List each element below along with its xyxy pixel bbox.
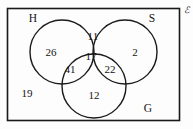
region-count-h-and-g: 41 — [64, 64, 75, 75]
set-label-g: G — [144, 103, 152, 115]
venn-diagram-figure: H S G 26 2 12 11 41 22 17 19 ℰ — [0, 0, 193, 129]
universal-set-symbol: ℰ — [184, 6, 189, 15]
region-count-h-and-s: 11 — [88, 31, 99, 42]
set-label-s: S — [149, 13, 155, 25]
set-circle-h — [30, 20, 94, 84]
region-count-all-three: 17 — [85, 51, 96, 62]
region-count-s-and-g: 22 — [104, 64, 115, 75]
region-count-outside-all: 19 — [21, 88, 32, 99]
region-count-g-only: 12 — [88, 90, 99, 101]
set-label-h: H — [29, 13, 37, 25]
region-count-s-only: 2 — [132, 47, 138, 58]
region-count-h-only: 26 — [45, 47, 56, 58]
set-circle-s — [93, 20, 157, 84]
